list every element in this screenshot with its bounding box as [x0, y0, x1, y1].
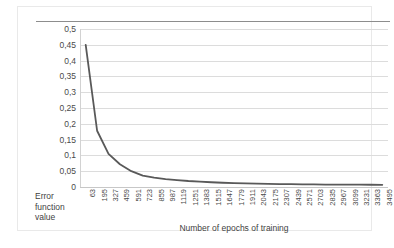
- x-tick-label: 2703: [317, 189, 325, 206]
- x-tick-label: 1119: [180, 189, 188, 205]
- x-tick-label: 459: [123, 189, 131, 202]
- y-axis-title-line: value: [35, 212, 81, 223]
- x-tick-label: 723: [146, 189, 154, 202]
- x-tick-label: 2967: [340, 189, 348, 206]
- y-tick-label: 0,45: [32, 40, 76, 49]
- x-tick-label: 2439: [295, 189, 303, 206]
- x-tick-label: 1911: [249, 189, 257, 205]
- x-tick-label: 3363: [374, 189, 382, 206]
- x-tick-label: 987: [169, 189, 177, 202]
- plot-area: [80, 29, 388, 187]
- x-tick-label: 1383: [203, 189, 211, 206]
- y-tick-label: 0,05: [32, 167, 76, 176]
- x-tick-label: 2043: [260, 189, 268, 206]
- error-curve: [80, 29, 388, 187]
- y-tick-label: 0,15: [32, 135, 76, 144]
- gridline: [80, 187, 388, 188]
- x-tick-label: 2571: [306, 189, 314, 206]
- x-tick-label: 1515: [215, 189, 223, 206]
- x-tick-label: 1251: [192, 189, 200, 206]
- x-tick-label: 855: [158, 189, 166, 202]
- y-tick-label: 0,2: [32, 119, 76, 128]
- x-tick-label: 2175: [272, 189, 280, 206]
- x-tick-label: 3099: [352, 189, 360, 206]
- y-tick-label: 0,5: [32, 25, 76, 34]
- y-tick-label: 0,25: [32, 104, 76, 113]
- x-tick-label: 591: [135, 189, 143, 202]
- y-axis-title-line: Error: [35, 191, 81, 202]
- y-tick-label: 0,1: [32, 151, 76, 160]
- x-tick-label: 3495: [386, 189, 394, 206]
- x-tick-label: 327: [112, 189, 120, 202]
- y-tick-label: 0,4: [32, 56, 76, 65]
- x-tick-label: 195: [101, 189, 109, 202]
- y-axis-title-line: function: [35, 202, 81, 213]
- chart-figure: 00,050,10,150,20,250,30,350,40,450,5 631…: [17, 6, 372, 231]
- x-tick-label: 1779: [238, 189, 246, 206]
- y-axis-title: Errorfunctionvalue: [35, 191, 81, 223]
- y-tick-label: 0,35: [32, 72, 76, 81]
- x-axis-title: Number of epochs of training: [80, 223, 388, 233]
- y-tick-label: 0,3: [32, 88, 76, 97]
- x-axis-tick-labels: 6319532745959172385598711191251138315151…: [80, 189, 388, 223]
- x-tick-label: 2835: [329, 189, 337, 206]
- x-tick-label: 3231: [363, 189, 371, 206]
- chart-top-rule: [36, 21, 390, 22]
- x-tick-label: 1647: [226, 189, 234, 206]
- y-axis-tick-labels: 00,050,10,150,20,250,30,350,40,450,5: [32, 29, 76, 187]
- x-tick-label: 2307: [283, 189, 291, 206]
- x-tick-label: 63: [89, 189, 97, 197]
